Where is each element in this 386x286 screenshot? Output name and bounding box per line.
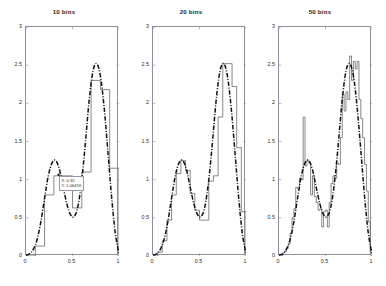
y-tick-label: 0.5	[264, 214, 275, 220]
y-tick-label: 1.5	[138, 138, 149, 144]
y-tick-label: 0.5	[138, 214, 149, 220]
x-tick-label: 0	[24, 258, 27, 264]
plot-series-layer	[279, 27, 372, 256]
y-tick-label: 2.5	[264, 61, 275, 67]
subplot-title-50-bins: 50 bins	[254, 8, 386, 15]
axes-box-20-bins	[152, 26, 245, 255]
subplot-title-10-bins: 10 bins	[0, 8, 128, 15]
subplot-10-bins: 10 bins 00.511.522.5300.51X: 0.35Y: 1.06…	[0, 0, 128, 286]
subplot-title-20-bins: 20 bins	[127, 8, 255, 15]
y-tick-label: 0	[264, 252, 275, 258]
y-tick-label: 0	[11, 252, 22, 258]
axes-box-50-bins	[278, 26, 371, 255]
y-tick-label: 2	[138, 99, 149, 105]
true-density-curve	[26, 64, 119, 256]
x-tick-label: 0	[277, 258, 280, 264]
x-tick-label: 0.5	[321, 258, 329, 264]
plot-series-layer	[153, 27, 246, 256]
y-tick-label: 2.5	[11, 61, 22, 67]
x-tick-label: 1	[370, 258, 373, 264]
plot-series-layer	[26, 27, 119, 256]
y-tick-label: 3	[264, 23, 275, 29]
y-tick-label: 1.5	[11, 138, 22, 144]
y-tick-label: 2	[11, 99, 22, 105]
y-tick-label: 1.5	[264, 138, 275, 144]
y-tick-label: 1	[264, 176, 275, 182]
y-tick-label: 3	[11, 23, 22, 29]
true-density-curve	[279, 64, 372, 256]
y-tick-label: 3	[138, 23, 149, 29]
x-tick-label: 0.5	[68, 258, 76, 264]
data-tip-y-value: Y: 1.06459	[62, 183, 82, 188]
subplot-20-bins: 20 bins 00.511.522.5300.51	[127, 0, 255, 286]
histogram-stairs	[279, 56, 372, 256]
subplot-50-bins: 50 bins 00.511.522.5300.51	[254, 0, 386, 286]
x-tick-label: 0.5	[195, 258, 203, 264]
y-tick-label: 0	[138, 252, 149, 258]
y-tick-label: 1	[11, 176, 22, 182]
figure-canvas: 10 bins 00.511.522.5300.51X: 0.35Y: 1.06…	[0, 0, 386, 286]
x-tick-label: 1	[117, 258, 120, 264]
y-tick-label: 2	[264, 99, 275, 105]
x-tick-label: 0	[151, 258, 154, 264]
y-tick-label: 0.5	[11, 214, 22, 220]
data-tip-tooltip[interactable]: X: 0.35Y: 1.06459	[59, 176, 85, 191]
histogram-stairs	[26, 80, 119, 256]
y-tick-label: 2.5	[138, 61, 149, 67]
axes-box-10-bins	[25, 26, 118, 255]
y-tick-label: 1	[138, 176, 149, 182]
x-tick-label: 1	[244, 258, 247, 264]
